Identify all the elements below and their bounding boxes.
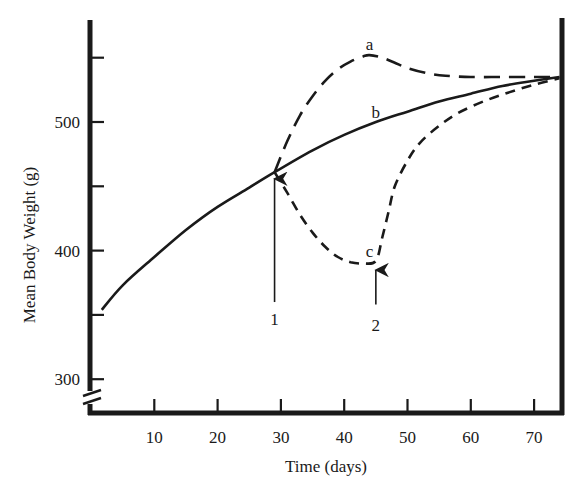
curve-label-a: a (366, 35, 374, 54)
axis-break-mark (83, 398, 101, 404)
y-tick-label: 400 (55, 242, 81, 261)
x-tick-label: 60 (462, 428, 479, 447)
line-chart: 30040050010203040506070 abc12 Time (days… (0, 0, 582, 487)
series-a-line (275, 55, 560, 172)
y-tick-label: 300 (55, 370, 81, 389)
series-b-line (102, 77, 560, 310)
x-tick-label: 70 (526, 428, 543, 447)
data-series (102, 55, 560, 310)
arrow-label-1: 1 (270, 310, 279, 329)
arrow-label-2: 2 (372, 316, 381, 335)
x-tick-label: 50 (399, 428, 416, 447)
y-axis-title: Mean Body Weight (g) (20, 167, 39, 324)
curve-label-c: c (366, 242, 374, 261)
curve-label-b: b (372, 103, 381, 122)
series-c-line (275, 78, 560, 263)
x-axis-title: Time (days) (285, 457, 367, 476)
x-tick-label: 40 (336, 428, 353, 447)
x-tick-label: 30 (272, 428, 289, 447)
x-tick-label: 20 (209, 428, 226, 447)
y-tick-label: 500 (55, 113, 81, 132)
x-tick-label: 10 (146, 428, 163, 447)
